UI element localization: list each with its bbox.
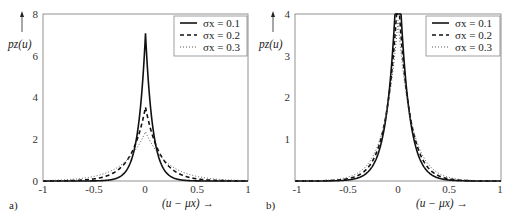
y-axis-b: 1 2 3 4 pz(u) bbox=[258, 8, 291, 145]
series-line bbox=[43, 107, 248, 181]
chart-panel-b: 1 2 3 4 pz(u) -1 -0.5 0 0.5 1 (u − μx) →… bbox=[258, 8, 503, 212]
x-tick-label: -1 bbox=[292, 183, 301, 195]
y-tick-label: 4 bbox=[33, 91, 39, 103]
x-tick-label: 0 bbox=[142, 183, 148, 195]
legend-entry: σx = 0.2 bbox=[203, 29, 240, 41]
x-tick-label: -0.5 bbox=[339, 183, 357, 195]
legend-b: σx = 0.1 σx = 0.2 σx = 0.3 bbox=[426, 16, 500, 56]
y-axis-a: 0 2 4 6 8 pz(u) bbox=[7, 8, 39, 187]
legend-a: σx = 0.1 σx = 0.2 σx = 0.3 bbox=[174, 16, 247, 56]
y-tick-label: 8 bbox=[33, 8, 39, 20]
x-tick-label: 1 bbox=[245, 183, 251, 195]
panel-label-b: b) bbox=[266, 199, 276, 212]
x-tick-label: -0.5 bbox=[85, 183, 103, 195]
y-tick-label: 2 bbox=[33, 133, 39, 145]
y-tick-label: 4 bbox=[285, 8, 291, 20]
y-tick-label: 1 bbox=[285, 133, 291, 145]
y-axis-label: pz(u) bbox=[7, 38, 32, 51]
x-axis-label: (u − μx) → bbox=[162, 197, 214, 210]
x-tick-label: 0.5 bbox=[190, 183, 204, 195]
legend-entry: σx = 0.1 bbox=[203, 17, 240, 29]
figure: 0 2 4 6 8 pz(u) -1 -0.5 0 0.5 1 (u − μx)… bbox=[0, 0, 511, 224]
y-tick-label: 6 bbox=[33, 50, 39, 62]
panel-label-a: a) bbox=[9, 199, 18, 212]
y-tick-label: 2 bbox=[285, 91, 291, 103]
series-line bbox=[43, 132, 248, 181]
x-axis-label: (u − μx) → bbox=[416, 197, 468, 210]
x-axis-b: -1 -0.5 0 0.5 1 (u − μx) → bbox=[292, 183, 502, 210]
y-axis-label: pz(u) bbox=[258, 38, 283, 51]
x-tick-label: -1 bbox=[38, 183, 47, 195]
x-tick-label: 0.5 bbox=[442, 183, 456, 195]
chart-panel-a: 0 2 4 6 8 pz(u) -1 -0.5 0 0.5 1 (u − μx)… bbox=[7, 8, 251, 212]
legend-entry: σx = 0.1 bbox=[455, 17, 492, 29]
y-tick-label: 3 bbox=[285, 50, 291, 62]
legend-entry: σx = 0.2 bbox=[455, 29, 492, 41]
x-tick-label: 1 bbox=[497, 183, 503, 195]
legend-entry: σx = 0.3 bbox=[455, 41, 492, 53]
legend-entry: σx = 0.3 bbox=[203, 41, 240, 53]
x-tick-label: 0 bbox=[395, 183, 401, 195]
arrow-head-icon bbox=[20, 11, 24, 17]
x-axis-a: -1 -0.5 0 0.5 1 (u − μx) → bbox=[38, 183, 250, 210]
arrow-head-icon bbox=[271, 11, 275, 17]
